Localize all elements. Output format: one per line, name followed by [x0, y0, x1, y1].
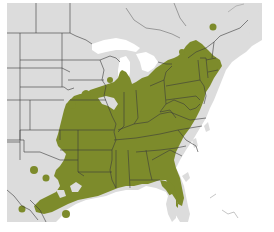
map-canvas	[0, 0, 274, 232]
range-map: Species range map — Eastern United State…	[0, 0, 274, 232]
